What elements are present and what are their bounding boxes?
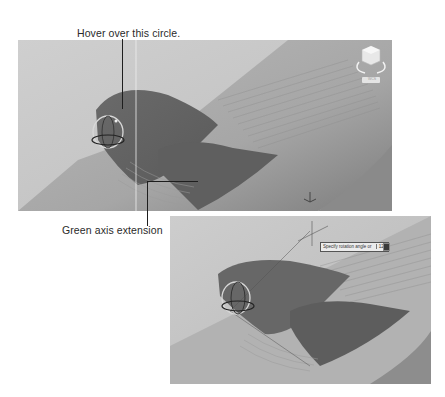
tooltip-options-button[interactable] — [383, 243, 390, 251]
viewport-screenshot-1: WCS — [18, 40, 392, 211]
rotate-gizmo-icon[interactable] — [218, 276, 260, 320]
tooltip-prompt: Specify rotation angle or — [323, 244, 372, 249]
green-axis-leader-vertical — [147, 181, 148, 226]
rotate-gizmo-icon[interactable] — [88, 108, 130, 152]
hover-circle-leader-line — [122, 39, 123, 109]
rotation-angle-tooltip[interactable]: Specify rotation angle or 120 — [320, 242, 389, 252]
hover-circle-callout-label: Hover over this circle. — [77, 27, 180, 39]
ucs-axis-icon — [300, 190, 320, 206]
green-axis-leader-horizontal — [147, 181, 198, 182]
viewport-screenshot-2: Specify rotation angle or 120 — [170, 216, 431, 384]
viewcube-wcs-label[interactable]: WCS — [364, 77, 380, 81]
